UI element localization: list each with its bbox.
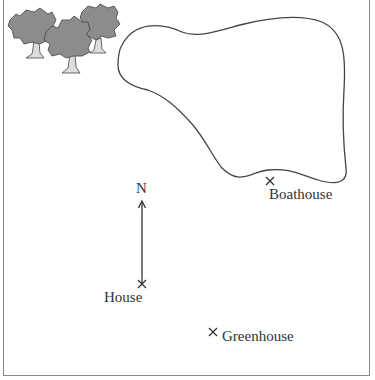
lake-outline	[118, 18, 346, 183]
boathouse-label: Boathouse	[269, 186, 332, 203]
compass-north-label: N	[136, 180, 147, 197]
greenhouse-marker-icon	[209, 328, 217, 336]
boathouse-marker-icon	[266, 177, 274, 185]
north-arrow-icon	[139, 201, 146, 283]
greenhouse-label: Greenhouse	[222, 328, 294, 345]
trees-icon	[8, 4, 120, 73]
house-label: House	[104, 289, 142, 306]
